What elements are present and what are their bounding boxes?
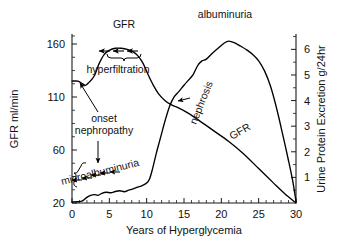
right-tick-label-4: 4	[304, 95, 310, 107]
albuminuria-label: albuminuria	[198, 8, 252, 20]
x-tick-label-15: 15	[178, 208, 190, 220]
chart-background	[0, 0, 337, 242]
left-tick-label-20: 20	[53, 197, 65, 209]
hyperfiltration-label: hyperfiltration	[86, 63, 149, 75]
right-tick-label-1: 1	[304, 171, 310, 183]
x-tick-label-0: 0	[69, 208, 75, 220]
onset-nephropathy-label-line1: onset	[91, 112, 117, 124]
left-tick-label-110: 110	[47, 91, 65, 103]
x-tick-label-30: 30	[290, 208, 302, 220]
right-tick-label-6: 6	[304, 43, 310, 55]
left-tick-label-60: 60	[53, 144, 65, 156]
diabetic-nephropathy-natural-history-chart: 051015202530 2060110160 123456 GFR hyper…	[0, 0, 337, 242]
x-tick-label-5: 5	[106, 208, 112, 220]
right-tick-label-2: 2	[304, 146, 310, 158]
x-tick-label-10: 10	[141, 208, 153, 220]
gfr-rise-label: GFR	[113, 18, 136, 30]
left-tick-label-160: 160	[47, 38, 65, 50]
y-right-axis-title: Urine Protein Excretion g/24hr	[315, 45, 327, 193]
x-tick-label-25: 25	[253, 208, 265, 220]
x-axis-title: Years of Hyperglycemia	[126, 224, 243, 236]
y-left-axis-title: GFR ml/min	[8, 90, 20, 149]
onset-nephropathy-label-line2: nephropathy	[75, 124, 134, 136]
x-tick-label-20: 20	[215, 208, 227, 220]
right-tick-label-3: 3	[304, 120, 310, 132]
chart-figure: 051015202530 2060110160 123456 GFR hyper…	[0, 0, 337, 242]
right-tick-label-5: 5	[304, 69, 310, 81]
